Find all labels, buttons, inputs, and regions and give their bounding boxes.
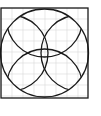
geometric-figure xyxy=(0,0,101,116)
diagram-canvas xyxy=(0,0,101,116)
outer-circle xyxy=(1,9,89,97)
top-arc xyxy=(7,49,83,116)
left-arc xyxy=(41,15,101,91)
